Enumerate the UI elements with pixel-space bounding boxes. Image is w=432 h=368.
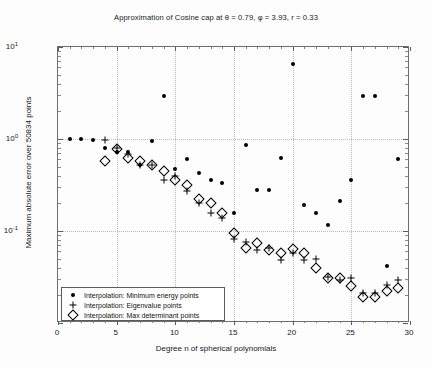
x-tick-top-minor <box>363 47 364 49</box>
y-tick-minor <box>58 240 61 241</box>
y-tick-minor-right <box>405 259 408 260</box>
x-tick-minor <box>70 321 71 323</box>
legend-item-1[interactable]: Interpolation: Eigenvalue points <box>62 300 224 310</box>
y-tick-minor <box>58 143 61 144</box>
marker-diamond <box>67 309 78 320</box>
x-tick-top-minor <box>128 47 129 49</box>
y-tick-minor-right <box>405 61 408 62</box>
y-tick-major-right <box>403 139 408 140</box>
x-tick-minor <box>269 321 270 323</box>
y-tick-minor-right <box>405 176 408 177</box>
y-tick-minor-right <box>405 95 408 96</box>
y-tick-minor-right <box>405 240 408 241</box>
data-point-s2 <box>334 272 345 283</box>
data-point-s1 <box>289 249 296 256</box>
y-tick-minor <box>58 203 61 204</box>
data-point-s0 <box>103 146 107 150</box>
data-point-s0 <box>91 138 95 142</box>
y-tick-minor <box>58 279 61 280</box>
data-point-s2 <box>310 262 321 273</box>
x-tick-minor <box>187 321 188 323</box>
y-tick-minor-right <box>405 251 408 252</box>
data-point-s1 <box>395 277 402 284</box>
data-point-s0 <box>115 150 119 154</box>
marker-plus <box>70 302 77 309</box>
y-tick-minor <box>58 159 61 160</box>
x-tick-label: 20 <box>287 328 296 337</box>
x-tick-top-minor <box>281 47 282 49</box>
y-tick-minor <box>58 111 61 112</box>
legend: Interpolation: Minimum energy pointsInte… <box>61 287 225 321</box>
y-tick-minor <box>58 67 61 68</box>
y-tick-minor-right <box>405 268 408 269</box>
data-point-s2 <box>111 143 122 154</box>
x-tick-label: 10 <box>170 328 179 337</box>
data-point-s0 <box>302 203 306 207</box>
x-tick-minor <box>211 321 212 323</box>
y-tick-major-right <box>403 47 408 48</box>
x-tick-top-major <box>410 47 411 51</box>
y-tick-minor <box>58 259 61 260</box>
x-tick-major <box>293 321 294 325</box>
data-point-s2 <box>146 159 157 170</box>
x-tick-label: 0 <box>55 328 59 337</box>
x-tick-top-minor <box>246 47 247 49</box>
data-point-s1 <box>184 188 191 195</box>
x-tick-top-major <box>117 47 118 51</box>
y-tick-label: 101 <box>6 41 18 52</box>
data-point-s2 <box>264 244 275 255</box>
data-point-s2 <box>252 237 263 248</box>
legend-item-0[interactable]: Interpolation: Minimum energy points <box>62 290 224 300</box>
x-tick-label: 25 <box>346 328 355 337</box>
x-tick-top-minor <box>340 47 341 49</box>
data-point-s1 <box>137 162 144 169</box>
x-tick-top-minor <box>269 47 270 49</box>
data-point-s1 <box>348 274 355 281</box>
legend-marker-dot <box>62 290 84 300</box>
y-tick-minor <box>58 148 61 149</box>
x-tick-major <box>117 321 118 325</box>
data-point-s0 <box>197 171 201 175</box>
data-point-s0 <box>209 178 213 182</box>
x-tick-top-minor <box>105 47 106 49</box>
data-point-s1 <box>207 210 214 217</box>
y-tick-minor <box>58 245 61 246</box>
y-tick-major-right <box>403 231 408 232</box>
data-point-s2 <box>346 281 357 292</box>
x-tick-top-minor <box>328 47 329 49</box>
data-point-s0 <box>220 181 224 185</box>
data-point-s2 <box>228 227 239 238</box>
x-tick-top-minor <box>187 47 188 49</box>
data-point-s1 <box>336 277 343 284</box>
y-tick-minor-right <box>405 67 408 68</box>
y-tick-minor-right <box>405 111 408 112</box>
data-point-s2 <box>381 286 392 297</box>
x-tick-major <box>234 321 235 325</box>
y-tick-minor <box>58 75 61 76</box>
data-point-s0 <box>396 157 400 161</box>
data-point-s0 <box>373 94 377 98</box>
data-point-s1 <box>231 235 238 242</box>
y-tick-minor-right <box>405 295 408 296</box>
legend-item-2[interactable]: Interpolation: Max determinant points <box>62 310 224 320</box>
data-point-s1 <box>277 256 284 263</box>
data-point-s1 <box>160 176 167 183</box>
data-point-s1 <box>371 290 378 297</box>
data-point-s1 <box>242 239 249 246</box>
gridline-vertical <box>117 47 118 321</box>
legend-label: Interpolation: Minimum energy points <box>84 292 224 299</box>
y-tick-minor <box>58 51 61 52</box>
y-tick-minor-right <box>405 279 408 280</box>
x-tick-minor <box>281 321 282 323</box>
y-tick-minor-right <box>405 75 408 76</box>
y-tick-minor-right <box>405 203 408 204</box>
y-tick-minor <box>58 268 61 269</box>
y-axis-title: Maximum absolute error over 50834 points <box>24 63 33 283</box>
x-tick-minor <box>316 321 317 323</box>
legend-marker-plus <box>62 300 84 310</box>
x-tick-minor <box>128 321 129 323</box>
y-tick-minor-right <box>405 51 408 52</box>
data-point-s0 <box>185 157 189 161</box>
x-tick-minor <box>363 321 364 323</box>
data-point-s0 <box>244 143 248 147</box>
